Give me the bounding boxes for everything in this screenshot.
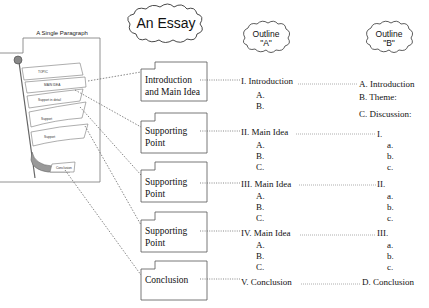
outline-b-sub: b. [387, 151, 394, 161]
flag-label: Support [41, 117, 52, 121]
box-label: Supporting [145, 176, 187, 188]
outline-a-sub: B. [256, 202, 264, 212]
outline-b-sub: b. [387, 251, 394, 261]
box-introduction: Introduction and Main Idea [145, 74, 200, 98]
outline-b-sub: c. [387, 162, 393, 172]
box-label: Point [145, 237, 187, 249]
outline-b-header-line2: "B" [366, 39, 412, 48]
flag-label: Conclusion [56, 166, 72, 170]
diagram-graphics [0, 0, 429, 308]
outline-b-heading: I. [377, 129, 382, 139]
outline-a-heading: I. Introduction [241, 76, 294, 86]
outline-b-sub: b. [387, 202, 394, 212]
outline-a-header: Outline "A" [243, 30, 289, 49]
flagpole-ball-icon [14, 56, 22, 64]
outline-a-sub: B. [256, 101, 264, 111]
outline-a-sub: B. [256, 151, 264, 161]
box-supporting-point-1: Supporting Point [145, 125, 187, 149]
outline-a-sub: A. [256, 90, 265, 100]
outline-b-heading: D. Conclusion [362, 277, 414, 287]
box-supporting-point-3: Supporting Point [145, 225, 187, 249]
outline-b-header: Outline "B" [366, 30, 412, 49]
essay-title: An Essay [128, 16, 204, 31]
outline-b-sub: a. [387, 140, 393, 150]
outline-b-sub: a. [387, 191, 393, 201]
box-supporting-point-2: Supporting Point [145, 176, 187, 200]
flag-label: MAIN IDEA [44, 83, 60, 87]
outline-a-sub: C. [256, 262, 264, 272]
outline-a-sub: C. [256, 162, 264, 172]
outline-b-heading: A. Introduction [359, 79, 415, 89]
outline-a-sub: A. [256, 191, 265, 201]
outline-b-sub: c. [387, 262, 393, 272]
box-label: Point [145, 188, 187, 200]
outline-a-header-line2: "A" [243, 39, 289, 48]
box-label: Point [145, 137, 187, 149]
outline-b-sub: a. [387, 240, 393, 250]
box-label: Conclusion [145, 274, 188, 286]
box-label: and Main Idea [145, 86, 200, 98]
outline-a-sub: B. [256, 251, 264, 261]
outline-b-heading: III. [377, 228, 388, 238]
outline-a-sub: C. [256, 213, 264, 223]
flag-label: TOPIC [38, 70, 48, 74]
box-conclusion: Conclusion [145, 274, 188, 286]
flag-label: Support in detail [38, 98, 61, 102]
outline-b-heading: II. [377, 179, 385, 189]
outline-a-heading: II. Main Idea [241, 127, 289, 137]
outline-b-sub: c. [387, 213, 393, 223]
box-label: Supporting [145, 125, 187, 137]
outline-a-heading: V. Conclusion [241, 277, 293, 287]
outline-a-sub: A. [256, 240, 265, 250]
paragraph-title: A Single Paragraph [22, 30, 102, 36]
outline-b-sub: C. Discussion: [359, 109, 412, 119]
outline-a-sub: A. [256, 140, 265, 150]
box-label: Introduction [145, 74, 200, 86]
flag-label: Support [44, 135, 55, 139]
outline-a-heading: III. Main Idea [241, 179, 292, 189]
box-label: Supporting [145, 225, 187, 237]
outline-b-sub: B. Theme: [359, 92, 397, 102]
outline-a-heading: IV. Main Idea [241, 228, 292, 238]
